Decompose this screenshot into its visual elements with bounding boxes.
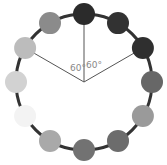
color-dot <box>107 130 129 152</box>
color-dot <box>132 37 154 59</box>
color-dot <box>14 37 36 59</box>
color-dot <box>14 105 36 127</box>
color-dot <box>132 105 154 127</box>
color-dot <box>141 71 163 93</box>
color-dot <box>5 71 27 93</box>
color-dot <box>107 12 129 34</box>
color-dot <box>39 130 61 152</box>
angle-label-right: 60° <box>86 60 102 70</box>
color-dot <box>39 12 61 34</box>
color-dot <box>73 3 95 25</box>
angle-label-left: 60° <box>70 63 86 73</box>
color-wheel-diagram: 60° 60° <box>0 0 167 165</box>
color-dot <box>73 139 95 161</box>
